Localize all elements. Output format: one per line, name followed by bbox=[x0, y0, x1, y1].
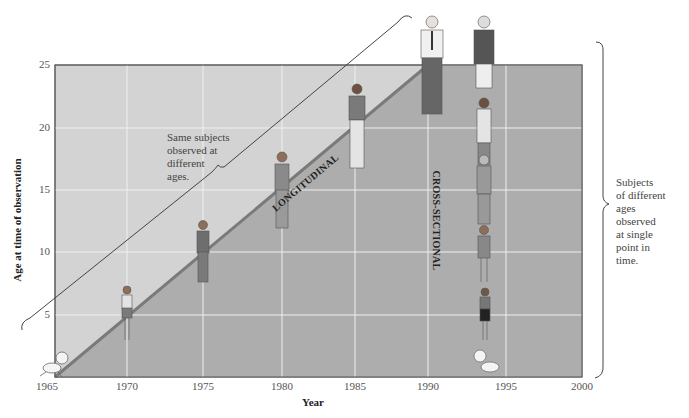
cross-sectional-note: Subjects of different ages observed at s… bbox=[616, 176, 666, 267]
x-tick-2000: 2000 bbox=[562, 380, 602, 392]
y-axis-title: Age at time of observation bbox=[11, 135, 23, 305]
longitudinal-note: Same subjects observed at different ages… bbox=[167, 131, 230, 183]
x-tick-1965: 1965 bbox=[27, 380, 67, 392]
x-tick-1975: 1975 bbox=[183, 380, 223, 392]
x-tick-1980: 1980 bbox=[262, 380, 302, 392]
young-adult-figure-1985 bbox=[349, 84, 365, 168]
adult-man-figure-1990 bbox=[421, 16, 443, 114]
y-tick-15: 15 bbox=[26, 183, 50, 195]
y-tick-25: 25 bbox=[26, 58, 50, 70]
diagram-canvas: 25 20 15 10 5 1965 1970 1975 1980 1985 1… bbox=[0, 0, 689, 418]
y-tick-20: 20 bbox=[26, 121, 50, 133]
y-tick-10: 10 bbox=[26, 245, 50, 257]
x-tick-1985: 1985 bbox=[335, 380, 375, 392]
y-tick-5: 5 bbox=[26, 308, 50, 320]
cross-sectional-label: CROSS-SECTIONAL bbox=[431, 170, 442, 270]
plot-graphics bbox=[0, 0, 689, 418]
cross-sectional-bracket bbox=[595, 42, 609, 378]
x-tick-1995: 1995 bbox=[486, 380, 526, 392]
x-tick-1990: 1990 bbox=[408, 380, 448, 392]
x-tick-1970: 1970 bbox=[107, 380, 147, 392]
x-axis-title: Year bbox=[302, 396, 324, 408]
